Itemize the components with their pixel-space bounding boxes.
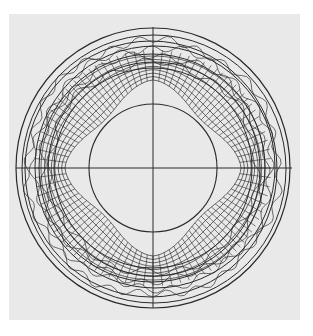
circular-mesh-diagram [0, 0, 313, 336]
